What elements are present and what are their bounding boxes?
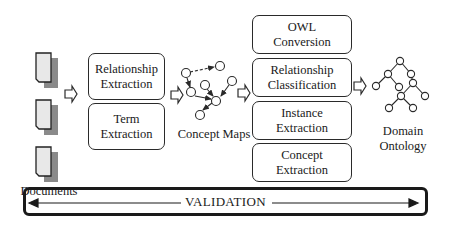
block-arrow-icon (171, 87, 183, 103)
box-label-line: Extraction (276, 163, 328, 178)
box-label-line: Extraction (100, 127, 152, 142)
box-label-line: Extraction (276, 121, 328, 136)
document-icon (36, 147, 58, 182)
validation-box: VALIDATION (23, 187, 428, 216)
block-arrow-icon (354, 78, 366, 94)
domain-ontology-label: Domain Ontology (370, 124, 436, 154)
concept-map-graph-icon (182, 62, 237, 120)
box-label-line: Conversion (273, 35, 331, 50)
box-label-line: Term (100, 112, 152, 127)
concept-maps-label: Concept Maps (174, 127, 254, 142)
document-icon (36, 100, 58, 135)
document-icon (36, 53, 58, 88)
instance-extraction-box: InstanceExtraction (252, 101, 352, 140)
document-stack-icon (36, 53, 58, 182)
box-label-line: Classification (268, 78, 337, 93)
relationship-classification-box: RelationshipClassification (252, 58, 352, 97)
concept-extraction-box: ConceptExtraction (252, 143, 352, 182)
box-label-line: Relationship (268, 63, 337, 78)
term-extraction-box: TermExtraction (88, 103, 165, 150)
tree-hierarchy-icon (372, 57, 428, 111)
box-label-line: OWL (273, 20, 331, 35)
label-line: Ontology (370, 139, 436, 154)
box-label-line: Concept (276, 148, 328, 163)
box-label-line: Relationship (95, 62, 158, 77)
validation-label: VALIDATION (181, 194, 270, 209)
label-line: Domain (370, 124, 436, 139)
block-arrow-icon (65, 86, 77, 102)
owl-conversion-box: OWLConversion (252, 15, 352, 54)
relationship-extraction-box: RelationshipExtraction (88, 53, 165, 100)
block-arrow-icon (238, 85, 250, 101)
box-label-line: Instance (276, 106, 328, 121)
box-label-line: Extraction (95, 77, 158, 92)
